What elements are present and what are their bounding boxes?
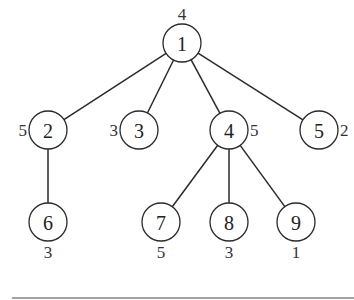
tree-node-3: 3 [120, 111, 158, 149]
tree-node-6: 6 [29, 203, 67, 241]
node-weight: 4 [178, 5, 187, 24]
node-weight: 1 [292, 243, 301, 262]
edges-layer [48, 53, 303, 207]
tree-node-2: 2 [29, 111, 67, 149]
node-weight: 3 [110, 121, 119, 140]
node-label: 4 [224, 120, 234, 142]
node-label: 8 [224, 212, 234, 234]
node-label: 2 [43, 120, 53, 142]
tree-node-9: 9 [277, 203, 315, 241]
node-weight: 3 [44, 243, 53, 262]
tree-node-4: 4 [210, 111, 248, 149]
edge-4-9 [240, 145, 285, 206]
edge-1-4 [191, 60, 220, 114]
edge-4-7 [172, 145, 217, 206]
node-label: 5 [314, 120, 324, 142]
node-label: 9 [291, 212, 301, 234]
edge-1-2 [64, 53, 166, 119]
node-weight: 5 [157, 243, 166, 262]
tree-node-5: 5 [300, 111, 338, 149]
edge-1-3 [147, 60, 173, 113]
edge-1-5 [198, 53, 303, 120]
node-weight: 5 [250, 121, 259, 140]
tree-diagram: 142533455263758391 [0, 0, 354, 300]
tree-node-8: 8 [210, 203, 248, 241]
node-weight: 3 [225, 243, 234, 262]
node-label: 3 [134, 120, 144, 142]
node-label: 6 [43, 212, 53, 234]
node-label: 7 [156, 212, 166, 234]
tree-node-1: 1 [163, 24, 201, 62]
node-weight: 5 [19, 121, 28, 140]
nodes-layer: 142533455263758391 [19, 5, 349, 262]
tree-node-7: 7 [142, 203, 180, 241]
node-label: 1 [177, 33, 187, 55]
node-weight: 2 [340, 121, 349, 140]
